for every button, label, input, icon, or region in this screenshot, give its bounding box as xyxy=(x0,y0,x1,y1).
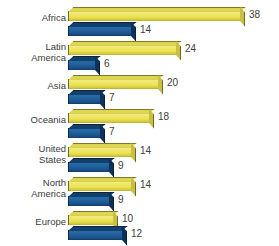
bar-value-label: 14 xyxy=(140,145,151,156)
bar-value-label: 6 xyxy=(104,58,110,69)
bar-front-face xyxy=(68,60,95,70)
chart-row: Oceania187 xyxy=(0,109,279,143)
bar-front-face xyxy=(68,215,113,225)
category-label: United States xyxy=(2,144,66,165)
bar-value-label: 14 xyxy=(140,24,151,35)
bar-front-face xyxy=(68,162,109,172)
bar-end-cap xyxy=(100,124,105,144)
bar-front-face xyxy=(68,79,158,89)
bar-value-label: 20 xyxy=(167,77,178,88)
bar-end-cap xyxy=(109,158,114,178)
bar-value-label: 14 xyxy=(140,179,151,190)
bar-value-label: 24 xyxy=(185,43,196,54)
category-label: Asia xyxy=(2,81,66,92)
bar-value-label: 38 xyxy=(249,9,260,20)
bar-end-cap xyxy=(131,177,136,197)
bar-value-label: 7 xyxy=(109,126,115,137)
category-label: North America xyxy=(2,178,66,199)
bar-front-face xyxy=(68,181,131,191)
chart-row: North America149 xyxy=(0,177,279,211)
bar-front-face xyxy=(68,147,131,157)
bar-end-cap xyxy=(131,143,136,163)
bar-front-face xyxy=(68,113,149,123)
bar-value-label: 7 xyxy=(109,92,115,103)
bar-front-face xyxy=(68,45,176,55)
bar-front-face xyxy=(68,26,131,36)
category-label: Oceania xyxy=(2,115,66,126)
bar-value-label: 18 xyxy=(158,111,169,122)
chart-row: Asia207 xyxy=(0,75,279,109)
bar-front-face xyxy=(68,230,122,240)
category-label: Africa xyxy=(2,13,66,24)
bar-end-cap xyxy=(176,41,181,61)
chart-row: Europe1012 xyxy=(0,211,279,245)
bar-value-label: 10 xyxy=(122,213,133,224)
bar-front-face xyxy=(68,196,109,206)
bar-end-cap xyxy=(131,22,136,42)
chart-row: United States149 xyxy=(0,143,279,177)
bar-end-cap xyxy=(149,109,154,129)
bar-end-cap xyxy=(100,90,105,110)
bar-value-label: 9 xyxy=(118,194,124,205)
category-label: Latin America xyxy=(2,42,66,63)
bar-end-cap xyxy=(109,192,114,212)
bar-end-cap xyxy=(122,226,127,246)
bar-value-label: 9 xyxy=(118,160,124,171)
bar-end-cap xyxy=(240,7,245,27)
chart-rows: Africa3814Latin America246Asia207Oceania… xyxy=(0,7,279,245)
bar-front-face xyxy=(68,128,100,138)
bar-value-label: 12 xyxy=(131,228,142,239)
bar-front-face xyxy=(68,11,240,21)
bar-end-cap xyxy=(95,56,100,76)
bar-end-cap xyxy=(158,75,163,95)
chart-row: Latin America246 xyxy=(0,41,279,75)
category-label: Europe xyxy=(2,217,66,228)
bar-front-face xyxy=(68,94,100,104)
chart-row: Africa3814 xyxy=(0,7,279,41)
